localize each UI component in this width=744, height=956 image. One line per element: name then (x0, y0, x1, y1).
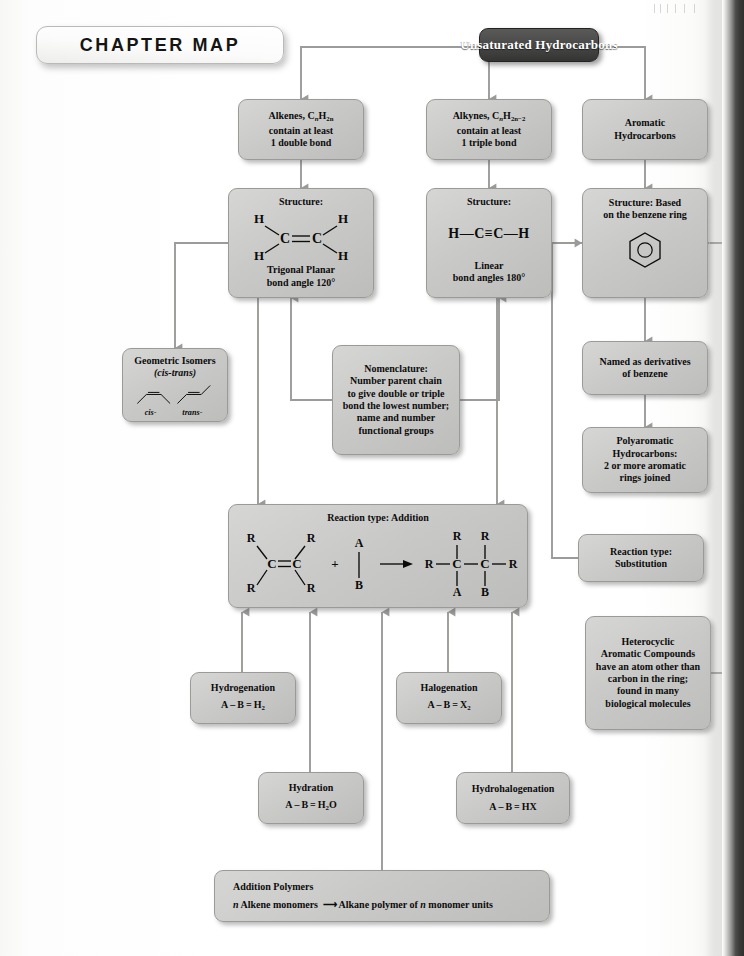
substitution-line2: Substitution (615, 558, 667, 570)
halogenation-formula: A – B = X2 (427, 699, 470, 714)
node-heterocyclic-aromatic-compounds[interactable]: Heterocyclic Aromatic Compounds have an … (585, 616, 711, 730)
hydration-formula: A – B = H2O (285, 799, 337, 814)
hydrohalogenation-label: Hydrohalogenation (472, 783, 555, 795)
node-addition-polymers[interactable]: Addition Polymers n Alkene monomers ⟶ Al… (214, 870, 550, 922)
heterocyclic-line1: Heterocyclic (621, 636, 674, 648)
node-alkenes[interactable]: Alkenes, CnH2n contain at least 1 double… (238, 99, 364, 160)
heterocyclic-line4: carbon in the ring; (608, 673, 688, 685)
node-benzene-structure[interactable]: Structure: Based on the benzene ring (582, 188, 708, 298)
heterocyclic-line3: have an atom other than (596, 661, 700, 673)
addition-polymers-title: Addition Polymers (233, 881, 313, 893)
scan-marks (654, 4, 700, 13)
addition-reaction-equation-icon: R R R R C C + A B R C C R R (235, 526, 521, 600)
svg-text:R: R (307, 581, 316, 595)
acetylene-formula: H—C≡C—H (448, 228, 529, 240)
polyaromatic-line3: 2 or more aromatic (604, 460, 686, 472)
node-hydration[interactable]: Hydration A – B = H2O (258, 772, 364, 824)
svg-text:C: C (280, 231, 290, 246)
nomenclature-line6: functional groups (358, 425, 433, 437)
cis-trans-structure-icon: cis- trans- (126, 383, 224, 417)
alkene-caption-1: Trigonal Planar (267, 264, 335, 276)
svg-text:R: R (247, 531, 256, 545)
hydrogenation-formula: A – B = H2 (221, 699, 265, 714)
nomenclature-line2: Number parent chain (350, 375, 442, 387)
svg-text:R: R (425, 557, 434, 571)
node-alkyne-structure[interactable]: Structure: H—C≡C—H Linear bond angles 18… (426, 188, 552, 298)
svg-text:R: R (509, 557, 518, 571)
node-polyaromatic-hydrocarbons[interactable]: Polyaromatic Hydrocarbons: 2 or more aro… (582, 427, 708, 493)
svg-text:R: R (247, 581, 256, 595)
addition-polymers-equation: n Alkene monomers ⟶ Alkane polymer of n … (233, 899, 493, 911)
alkyne-caption-1: Linear (475, 260, 504, 272)
node-hydrogenation[interactable]: Hydrogenation A – B = H2 (190, 672, 296, 724)
alkyne-structure-title: Structure: (467, 196, 511, 208)
nomenclature-line4: bond the lowest number; (343, 400, 449, 412)
node-reaction-addition[interactable]: Reaction type: Addition R R R R C C + A … (228, 504, 528, 608)
svg-text:H: H (254, 211, 264, 226)
svg-text:H: H (338, 248, 348, 263)
node-nomenclature[interactable]: Nomenclature: Number parent chain to giv… (332, 345, 460, 455)
polyaromatic-line2: Hydrocarbons: (613, 448, 678, 460)
root-label: Unsaturated Hydrocarbons (460, 39, 617, 51)
heterocyclic-line2: Aromatic Compounds (601, 648, 696, 660)
svg-text:trans-: trans- (182, 408, 202, 417)
alkene-structure-title: Structure: (279, 196, 323, 208)
substitution-line1: Reaction type: (610, 546, 672, 558)
svg-text:B: B (355, 578, 363, 592)
hydration-label: Hydration (289, 782, 333, 794)
benzene-ring-icon (625, 230, 665, 274)
named-derivatives-line1: Named as derivatives (599, 356, 690, 368)
svg-text:cis-: cis- (145, 408, 157, 417)
node-alkynes[interactable]: Alkynes, CnH2n−2 contain at least 1 trip… (426, 99, 552, 160)
nomenclature-line5: name and number (357, 412, 435, 424)
node-reaction-substitution[interactable]: Reaction type: Substitution (578, 534, 704, 582)
hydrogenation-label: Hydrogenation (211, 682, 275, 694)
svg-text:H: H (338, 211, 348, 226)
reaction-addition-title: Reaction type: Addition (327, 512, 429, 524)
svg-text:A: A (453, 585, 462, 599)
alkynes-formula: Alkynes, CnH2n−2 (453, 110, 526, 125)
alkene-caption-2: bond angle 120° (267, 277, 335, 289)
svg-text:+: + (331, 556, 338, 571)
chapter-map-title: CHAPTER MAP (80, 35, 241, 56)
chapter-map-diagram: CHAPTER MAP Unsaturated Hydrocarbons Alk… (0, 0, 744, 956)
svg-text:A: A (355, 536, 364, 550)
svg-text:H: H (254, 248, 264, 263)
polyaromatic-line1: Polyaromatic (616, 435, 673, 447)
svg-text:R: R (453, 529, 462, 543)
benzene-line1: Structure: Based (609, 197, 681, 209)
svg-text:B: B (481, 585, 489, 599)
alkynes-line2: contain at least (457, 125, 521, 137)
polyaromatic-line4: rings joined (620, 472, 671, 484)
alkenes-formula: Alkenes, CnH2n (269, 110, 334, 125)
benzene-line2: on the benzene ring (603, 209, 687, 221)
svg-text:C: C (292, 556, 301, 571)
chapter-map-banner: CHAPTER MAP (36, 26, 284, 64)
ethene-structure-icon: H H H H C C (239, 208, 363, 264)
node-unsaturated-hydrocarbons[interactable]: Unsaturated Hydrocarbons (479, 28, 599, 62)
halogenation-label: Halogenation (420, 682, 477, 694)
alkyne-caption-2: bond angles 180° (453, 272, 525, 284)
nomenclature-line3: to give double or triple (347, 388, 444, 400)
svg-text:C: C (267, 556, 276, 571)
svg-text:C: C (312, 231, 322, 246)
geometric-line2: (cis-trans) (154, 367, 196, 379)
named-derivatives-line2: of benzene (622, 368, 667, 380)
node-halogenation[interactable]: Halogenation A – B = X2 (396, 672, 502, 724)
node-alkene-structure[interactable]: Structure: H H H H C C Trigonal Planar b… (228, 188, 374, 298)
aromatic-line1: Aromatic (625, 117, 665, 129)
alkynes-line3: 1 triple bond (461, 137, 516, 149)
geometric-line1: Geometric Isomers (134, 355, 215, 367)
alkenes-line2: contain at least (269, 125, 333, 137)
node-aromatic-hydrocarbons[interactable]: Aromatic Hydrocarbons (582, 99, 708, 160)
alkenes-line3: 1 double bond (271, 137, 332, 149)
svg-text:R: R (307, 531, 316, 545)
svg-text:R: R (481, 529, 490, 543)
node-named-derivatives[interactable]: Named as derivatives of benzene (582, 341, 708, 395)
node-geometric-isomers[interactable]: Geometric Isomers (cis-trans) cis- trans… (122, 348, 228, 422)
aromatic-line2: Hydrocarbons (614, 130, 676, 142)
node-hydrohalogenation[interactable]: Hydrohalogenation A – B = HX (456, 772, 570, 824)
nomenclature-line1: Nomenclature: (364, 363, 428, 375)
hydrohalogenation-formula: A – B = HX (489, 801, 537, 813)
heterocyclic-line6: biological molecules (605, 698, 690, 710)
